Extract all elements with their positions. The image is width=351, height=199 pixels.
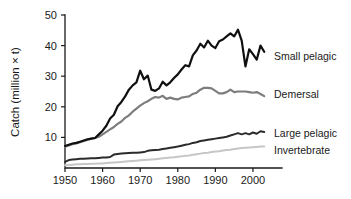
series-label-large-pelagic: Large pelagic <box>274 127 337 139</box>
y-tick-label: 50 <box>45 9 57 21</box>
chart-figure: 1020304050 195019601970198019902000 Smal… <box>0 0 351 199</box>
y-tick-label: 30 <box>45 70 57 82</box>
x-tick-label: 1980 <box>166 174 190 186</box>
series-label-demersal: Demersal <box>274 88 319 100</box>
x-tick-label: 2000 <box>241 174 265 186</box>
y-tick-label: 40 <box>45 40 57 52</box>
y-axis-tick-labels: 1020304050 <box>45 9 57 143</box>
series-label-invertebrate: Invertebrate <box>274 144 330 156</box>
y-axis-title: Catch (million × t) <box>9 47 21 137</box>
x-tick-label: 1990 <box>203 174 227 186</box>
x-tick-label: 1960 <box>90 174 114 186</box>
x-axis-tick-labels: 195019601970198019902000 <box>53 174 265 186</box>
series-label-small-pelagic: Small pelagic <box>274 50 336 62</box>
x-tick-label: 1970 <box>128 174 152 186</box>
catch-line-chart: 1020304050 195019601970198019902000 Smal… <box>0 0 351 199</box>
x-tick-label: 1950 <box>53 174 77 186</box>
y-tick-label: 10 <box>45 131 57 143</box>
series-labels: Small pelagicDemersalLarge pelagicInvert… <box>274 50 337 156</box>
series-line-small-pelagic <box>65 30 264 146</box>
series-lines <box>65 30 264 166</box>
y-tick-label: 20 <box>45 101 57 113</box>
